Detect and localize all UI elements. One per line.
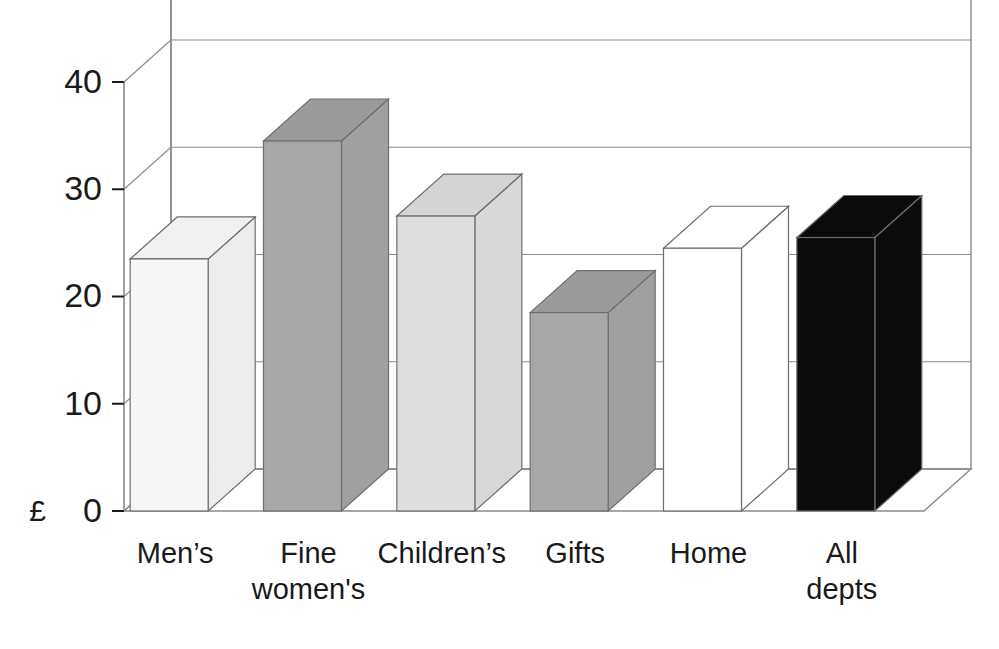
- x-category-label: All: [826, 537, 858, 569]
- x-category-label: Home: [670, 537, 747, 569]
- y-axis-currency-symbol: £: [29, 494, 46, 527]
- bar-all-depts[interactable]: [797, 196, 922, 511]
- bar-side-face: [208, 217, 255, 511]
- bar-home[interactable]: [664, 206, 789, 511]
- x-category-label: Gifts: [545, 537, 605, 569]
- x-category-label: depts: [806, 573, 877, 605]
- y-tick-label-30: 30: [64, 169, 102, 207]
- bar-front-face: [264, 141, 342, 511]
- bar-fine-womens[interactable]: [264, 99, 389, 511]
- x-category-label: Children’s: [378, 537, 506, 569]
- bar-side-face: [875, 196, 922, 511]
- bar-front-face: [130, 259, 208, 511]
- bar-childrens[interactable]: [397, 174, 522, 511]
- bar-front-face: [797, 238, 875, 511]
- bar-gifts[interactable]: [530, 271, 655, 511]
- bar-side-face: [742, 206, 789, 511]
- bar-side-face: [475, 174, 522, 511]
- bar-mens[interactable]: [130, 217, 255, 511]
- bar-front-face: [530, 313, 608, 511]
- y-tick-label-10: 10: [64, 384, 102, 422]
- x-category-label: women's: [251, 573, 366, 605]
- x-category-label: Men’s: [137, 537, 214, 569]
- x-axis-category-labels: Men’sFinewomen'sChildren’sGiftsHomeAllde…: [137, 537, 878, 605]
- y-axis-tick-labels: 403020100£: [29, 62, 102, 529]
- bar-chart-figure: 403020100£ Men’sFinewomen'sChildren’sGif…: [0, 0, 999, 649]
- y-tick-label-20: 20: [64, 276, 102, 314]
- chart-canvas: 403020100£ Men’sFinewomen'sChildren’sGif…: [0, 0, 999, 649]
- y-tick-label-0: 0: [83, 491, 102, 529]
- bar-front-face: [664, 248, 742, 511]
- bar-side-face: [342, 99, 389, 511]
- y-tick-label-40: 40: [64, 62, 102, 100]
- bar-front-face: [397, 216, 475, 511]
- x-category-label: Fine: [280, 537, 336, 569]
